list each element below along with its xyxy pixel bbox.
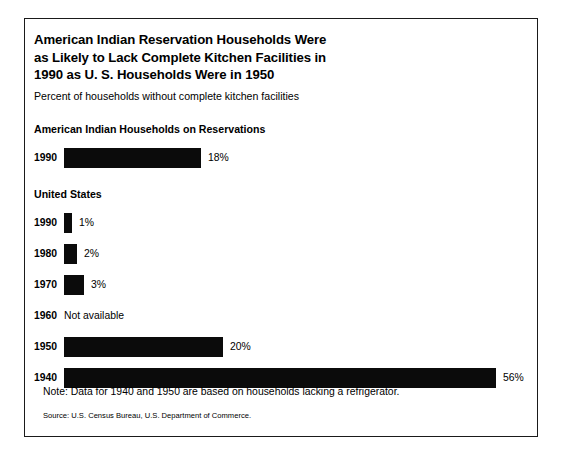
chart-title-line-3: 1990 as U. S. Households Were in 1950 bbox=[34, 66, 528, 84]
not-available-label: Not available bbox=[64, 306, 124, 326]
bar-value-label: 1% bbox=[79, 213, 94, 233]
bar-value-label: 18% bbox=[208, 148, 229, 168]
table-row: 1950 20% bbox=[34, 337, 528, 357]
bar-area: 18% bbox=[64, 148, 528, 168]
bar-area: 3% bbox=[64, 275, 528, 295]
bar-area: 1% bbox=[64, 213, 528, 233]
chart-frame: American Indian Reservation Households W… bbox=[24, 18, 538, 437]
chart-source: Source: U.S. Census Bureau, U.S. Departm… bbox=[43, 411, 251, 420]
bar-area: 56% bbox=[64, 368, 528, 388]
section-header-united-states: United States bbox=[34, 188, 528, 200]
bar-area: 20% bbox=[64, 337, 528, 357]
bar bbox=[64, 368, 496, 388]
chart-title-line-2: as Likely to Lack Complete Kitchen Facil… bbox=[34, 49, 528, 67]
chart-subtitle: Percent of households without complete k… bbox=[34, 89, 528, 103]
bar-year-label: 1960 bbox=[34, 306, 64, 326]
table-row: 1970 3% bbox=[34, 275, 528, 295]
bar-value-label: 56% bbox=[503, 368, 524, 388]
bar-year-label: 1990 bbox=[34, 148, 64, 168]
bar-year-label: 1950 bbox=[34, 337, 64, 357]
bar bbox=[64, 244, 77, 264]
bar-year-label: 1970 bbox=[34, 275, 64, 295]
table-row: 1990 18% bbox=[34, 148, 528, 168]
bar bbox=[64, 275, 84, 295]
chart-inner: American Indian Reservation Households W… bbox=[34, 28, 528, 430]
bar-value-label: 3% bbox=[91, 275, 106, 295]
bar bbox=[64, 148, 201, 168]
chart-title-block: American Indian Reservation Households W… bbox=[34, 31, 528, 103]
chart-note: Note: Data for 1940 and 1950 are based o… bbox=[43, 386, 399, 397]
bar-area: Not available bbox=[64, 306, 528, 326]
table-row: 1990 1% bbox=[34, 213, 528, 233]
table-row: 1960 Not available bbox=[34, 306, 528, 326]
section-header-reservations: American Indian Households on Reservatio… bbox=[34, 123, 528, 135]
chart-title-line-1: American Indian Reservation Households W… bbox=[34, 31, 528, 49]
table-row: 1940 56% bbox=[34, 368, 528, 388]
table-row: 1980 2% bbox=[34, 244, 528, 264]
bar bbox=[64, 337, 223, 357]
bar-year-label: 1990 bbox=[34, 213, 64, 233]
bar bbox=[64, 213, 72, 233]
bar-year-label: 1980 bbox=[34, 244, 64, 264]
bar-value-label: 2% bbox=[84, 244, 99, 264]
bar-year-label: 1940 bbox=[34, 368, 64, 388]
bar-area: 2% bbox=[64, 244, 528, 264]
bar-value-label: 20% bbox=[230, 337, 251, 357]
